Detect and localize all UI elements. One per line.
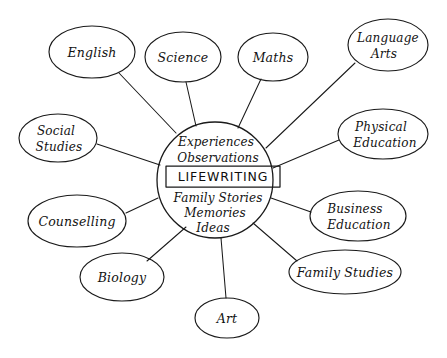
node-family-studies-label: Family Studies bbox=[296, 265, 393, 280]
node-english[interactable]: English bbox=[49, 26, 135, 78]
node-maths[interactable]: Maths bbox=[238, 33, 308, 81]
node-social-studies-label-line1: Social bbox=[37, 124, 75, 138]
connector-english bbox=[119, 73, 176, 133]
connector-maths bbox=[238, 79, 261, 128]
node-biology[interactable]: Biology bbox=[80, 253, 164, 301]
node-physical-education-label-line1: Physical bbox=[354, 120, 407, 134]
node-physical-education-outline bbox=[338, 109, 428, 159]
node-biology-label: Biology bbox=[97, 270, 147, 285]
node-language-arts-label-line2: Arts bbox=[370, 47, 397, 61]
connector-language-arts bbox=[266, 63, 355, 148]
hub-line-ideas: Ideas bbox=[195, 221, 229, 235]
node-social-studies-label-line2: Studies bbox=[36, 140, 83, 154]
hub-line-observations: Observations bbox=[177, 151, 258, 165]
node-social-studies[interactable]: Social Studies bbox=[19, 114, 97, 162]
node-business-education[interactable]: Business Education bbox=[310, 191, 406, 241]
node-physical-education[interactable]: Physical Education bbox=[338, 109, 428, 159]
connector-business-education bbox=[271, 198, 311, 212]
hub-line-experiences: Experiences bbox=[177, 135, 254, 149]
node-english-label: English bbox=[66, 45, 116, 60]
connector-biology bbox=[147, 227, 186, 261]
connector-physical-education bbox=[273, 140, 339, 168]
connector-family-studies bbox=[253, 223, 297, 261]
node-physical-education-label-line2: Education bbox=[352, 136, 416, 150]
hub-line-family-stories: Family Stories bbox=[173, 191, 263, 205]
lifewriting-hub[interactable]: Experiences Observations LIFEWRITING Fam… bbox=[157, 122, 280, 238]
core-label: LIFEWRITING bbox=[178, 169, 269, 184]
node-maths-label: Maths bbox=[252, 50, 294, 65]
node-business-education-label-line1: Business bbox=[326, 202, 382, 216]
node-counselling-label: Counselling bbox=[38, 214, 115, 229]
connector-counselling bbox=[126, 198, 158, 213]
node-language-arts-label-line1: Language bbox=[356, 31, 419, 45]
connector-science bbox=[186, 82, 196, 126]
node-science[interactable]: Science bbox=[145, 32, 221, 82]
node-science-label: Science bbox=[158, 50, 209, 65]
node-counselling[interactable]: Counselling bbox=[28, 195, 126, 247]
connector-social-studies bbox=[97, 144, 160, 165]
node-social-studies-outline bbox=[19, 114, 97, 162]
connector-art bbox=[221, 238, 226, 298]
node-language-arts-outline bbox=[348, 19, 428, 71]
hub-line-memories: Memories bbox=[183, 206, 246, 220]
node-language-arts[interactable]: Language Arts bbox=[348, 19, 428, 71]
node-business-education-outline bbox=[310, 191, 406, 241]
node-art-label: Art bbox=[216, 311, 238, 326]
node-art[interactable]: Art bbox=[195, 298, 259, 338]
node-family-studies[interactable]: Family Studies bbox=[289, 250, 401, 294]
lifewriting-mind-map: English Science Maths Language Arts Phys… bbox=[0, 0, 447, 358]
node-business-education-label-line2: Education bbox=[326, 218, 390, 232]
